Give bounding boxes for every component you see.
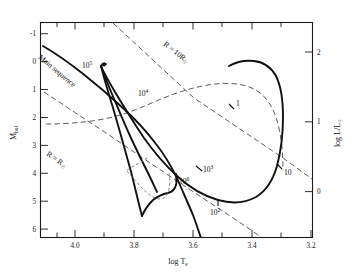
y-axis-title-sub: bol [13, 126, 19, 133]
curve-tick-iso1 [229, 104, 234, 109]
evolution-hook-10e6 [142, 174, 177, 216]
y-axis-title-text: M [9, 133, 18, 140]
y-right-axis-title: log L/L☉ [333, 118, 343, 147]
svg-text:log L/L☉: log L/L☉ [333, 118, 343, 147]
svg-text:Main sequence: Main sequence [37, 53, 78, 90]
chart-canvas: 4.0 3.8 3.6 3.4 3.2 [0, 0, 353, 279]
main-sequence-label: Main sequence [37, 53, 78, 90]
x-axis-ticks [57, 230, 311, 237]
x-axis-tick-labels: 4.0 3.8 3.6 3.4 3.2 [71, 242, 316, 250]
radius-10rsun-label: R = 10R☉ [161, 39, 191, 66]
x-tick-label: 3.6 [189, 242, 198, 250]
y-tick-label: 2 [32, 114, 36, 122]
y2-axis-title-sun: ☉ [337, 118, 343, 123]
apex-marker [102, 63, 106, 67]
x-tick-label: 3.4 [248, 242, 257, 250]
y-right-axis-ticks [305, 52, 313, 192]
curve-label-10e3: 103 [203, 164, 214, 174]
radius-line-1rsun [44, 92, 262, 238]
y-tick-label: 3 [32, 142, 36, 150]
y2-tick-label: 2 [317, 49, 321, 57]
x-tick-label: 4.0 [71, 242, 80, 250]
y-left-tick-labels: -1 0 1 2 3 4 5 6 [30, 30, 36, 233]
isochrone-label-10: 10 [284, 168, 292, 177]
y-right-tick-labels: 2 1 0 [317, 49, 321, 197]
svg-text:Mbol: Mbol [9, 126, 19, 140]
x-axis-title: log Te [168, 257, 188, 267]
top-axis-ticks [57, 23, 281, 30]
y-tick-label: 0 [32, 58, 36, 66]
x-tick-label: 3.8 [130, 242, 139, 250]
y-tick-label: 6 [32, 226, 36, 234]
y-tick-label: 4 [32, 170, 36, 178]
y2-tick-label: 1 [317, 118, 321, 126]
svg-text:R = R☉: R = R☉ [44, 149, 69, 171]
radius-1rsun-label: R = R☉ [44, 149, 69, 171]
hr-diagram-figure: 4.0 3.8 3.6 3.4 3.2 [0, 0, 353, 279]
x-tick-label: 3.2 [307, 242, 316, 250]
evolution-branch-10e6 [101, 66, 142, 216]
y-left-axis-title: Mbol [9, 126, 19, 140]
curve-label-10e2: 102 [210, 207, 221, 217]
svg-text:log Te: log Te [168, 257, 188, 267]
y2-axis-title-text: log L/L [333, 123, 342, 147]
isochrone-label-1: 1 [236, 99, 240, 108]
main-sequence-lower [177, 178, 201, 238]
y2-tick-label: 0 [317, 188, 321, 196]
x-axis-title-text: log T [168, 257, 185, 266]
x-axis-title-sub: e [185, 261, 188, 267]
curve-label-10e4: 104 [138, 88, 149, 98]
svg-text:R = 10R☉: R = 10R☉ [161, 39, 191, 66]
y-tick-label: 5 [32, 198, 36, 206]
curve-tick-10e3 [196, 166, 202, 171]
curve-label-10e5: 105 [82, 60, 93, 70]
y-tick-label: -1 [30, 30, 36, 38]
y-tick-label: 1 [32, 86, 36, 94]
